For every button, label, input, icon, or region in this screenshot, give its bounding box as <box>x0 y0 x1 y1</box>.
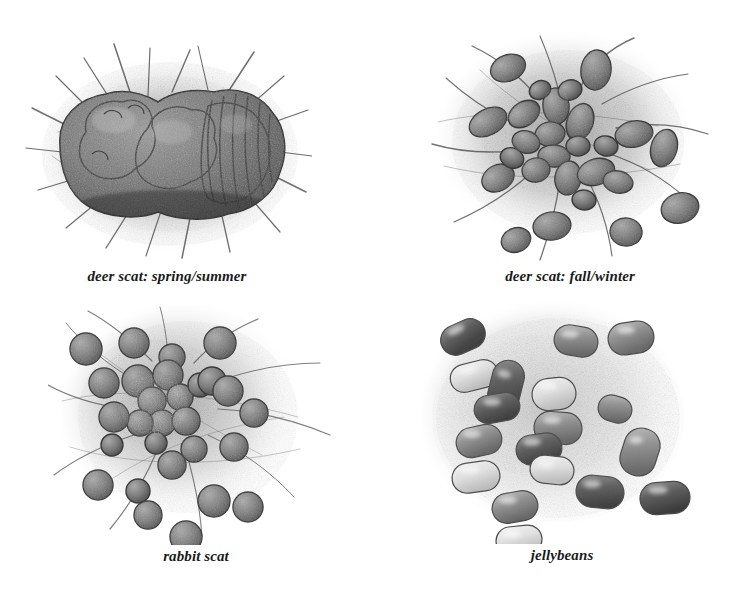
jellybeans-drawing <box>412 300 712 544</box>
panel-deer-fall-winter: deer scat: fall/winter <box>420 30 720 286</box>
panel-jellybeans: jellybeans <box>412 300 712 562</box>
caption-deer-spring-summer: deer scat: spring/summer <box>22 268 312 285</box>
caption-deer-fall-winter: deer scat: fall/winter <box>420 268 720 285</box>
panel-rabbit: rabbit scat <box>48 305 344 565</box>
rabbit-scat-drawing <box>48 305 344 545</box>
deer-fall-winter-drawing <box>420 30 720 266</box>
caption-jellybeans: jellybeans <box>412 547 712 564</box>
caption-rabbit: rabbit scat <box>48 548 344 565</box>
illustration-plate: deer scat: spring/summer <box>0 0 738 605</box>
panel-deer-spring-summer: deer scat: spring/summer <box>22 36 312 286</box>
deer-spring-summer-drawing <box>22 36 312 262</box>
